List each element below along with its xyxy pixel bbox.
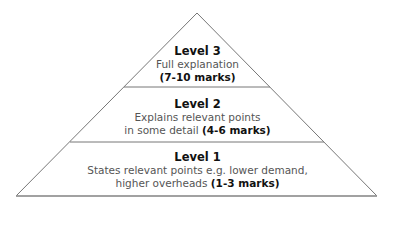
level-2-title: Level 2 <box>0 97 395 111</box>
level-1-description-line2: higher overheads <box>116 177 211 189</box>
level-1-title: Level 1 <box>0 150 395 164</box>
level-3-marks: (7-10 marks) <box>160 71 236 83</box>
level-2-marks: (4-6 marks) <box>202 124 271 136</box>
level-2: Level 2 Explains relevant points in some… <box>0 97 395 137</box>
level-3-title: Level 3 <box>0 44 395 58</box>
level-1-marks: (1-3 marks) <box>211 177 280 189</box>
level-2-description-line1: Explains relevant points <box>0 111 395 124</box>
level-1: Level 1 States relevant points e.g. lowe… <box>0 150 395 190</box>
level-1-description-line1: States relevant points e.g. lower demand… <box>0 164 395 177</box>
level-3: Level 3 Full explanation (7-10 marks) <box>0 44 395 84</box>
level-3-description: Full explanation <box>0 58 395 71</box>
level-2-description-line2: in some detail <box>124 124 202 136</box>
